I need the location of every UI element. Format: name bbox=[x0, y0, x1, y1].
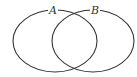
venn-diagram: A B bbox=[0, 0, 137, 77]
set-a-ellipse bbox=[13, 10, 97, 72]
set-b-label: B bbox=[90, 4, 99, 17]
set-a-label: A bbox=[48, 4, 57, 17]
set-b-ellipse bbox=[52, 10, 134, 72]
